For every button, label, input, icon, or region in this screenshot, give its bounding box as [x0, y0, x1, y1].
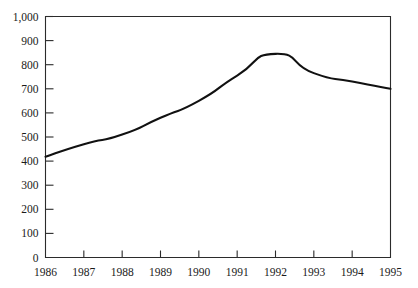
y-tick-label: 100: [21, 227, 39, 239]
y-tick-label: 1,000: [13, 11, 39, 24]
x-axis-tick-marks: [84, 251, 352, 258]
x-tick-label: 1989: [149, 266, 172, 278]
y-tick-label: 200: [21, 203, 39, 215]
x-tick-label: 1991: [226, 266, 249, 278]
plot-area-frame: [46, 17, 391, 258]
line-chart-figure: 01002003004005006007008009001,000 198619…: [0, 0, 418, 288]
y-tick-label: 800: [21, 59, 39, 71]
y-tick-label: 0: [33, 252, 39, 264]
x-tick-label: 1988: [111, 266, 134, 278]
data-series-line: [46, 54, 391, 157]
y-axis-tick-marks: [46, 17, 54, 234]
y-tick-label: 300: [21, 179, 39, 191]
y-axis-tick-labels: 01002003004005006007008009001,000: [13, 11, 39, 264]
x-tick-label: 1993: [302, 266, 325, 278]
x-tick-label: 1990: [187, 266, 210, 278]
y-tick-label: 400: [21, 155, 39, 167]
x-axis-tick-labels: 1986198719881989199019911992199319941995: [34, 266, 402, 278]
chart-canvas: 01002003004005006007008009001,000 198619…: [0, 0, 418, 288]
x-tick-label: 1994: [341, 266, 364, 278]
y-tick-label: 500: [21, 131, 39, 143]
y-tick-label: 900: [21, 35, 39, 47]
y-tick-label: 600: [21, 107, 39, 119]
x-tick-label: 1987: [72, 266, 95, 278]
x-tick-label: 1986: [34, 266, 57, 278]
x-tick-label: 1992: [264, 266, 287, 278]
y-tick-label: 700: [21, 83, 39, 95]
x-tick-label: 1995: [379, 266, 402, 278]
